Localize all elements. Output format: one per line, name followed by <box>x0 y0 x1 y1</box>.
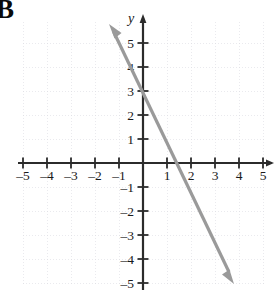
y-tick-label: 2 <box>127 108 134 123</box>
y-tick-label: –1 <box>120 180 135 195</box>
x-tick-label: 1 <box>164 168 171 183</box>
y-tick-label: –2 <box>120 204 135 219</box>
x-tick-label: –3 <box>63 168 78 183</box>
y-axis-arrow-icon <box>140 14 147 23</box>
x-tick-label: –2 <box>87 168 102 183</box>
y-axis-label: y <box>126 11 135 26</box>
y-tick-label: –5 <box>120 276 135 291</box>
y-tick-label: –3 <box>120 228 135 243</box>
x-tick-label: –5 <box>15 168 30 183</box>
x-tick-label: 2 <box>188 168 195 183</box>
coordinate-plane: y –5 –4 –3 –2 –1 1 2 3 4 5 5 4 3 2 1 –1 … <box>0 0 276 297</box>
x-tick-label: 3 <box>212 168 219 183</box>
x-axis-arrow-icon <box>266 160 274 167</box>
x-tick-label: 4 <box>236 168 243 183</box>
y-tick-label: 1 <box>127 132 134 147</box>
y-tick-label: 3 <box>127 84 134 99</box>
x-tick-label: –4 <box>39 168 54 183</box>
y-tick-label: 5 <box>127 36 134 51</box>
graph-figure: B <box>0 0 276 297</box>
y-tick-label: –4 <box>120 252 135 267</box>
x-tick-label: 5 <box>260 168 267 183</box>
